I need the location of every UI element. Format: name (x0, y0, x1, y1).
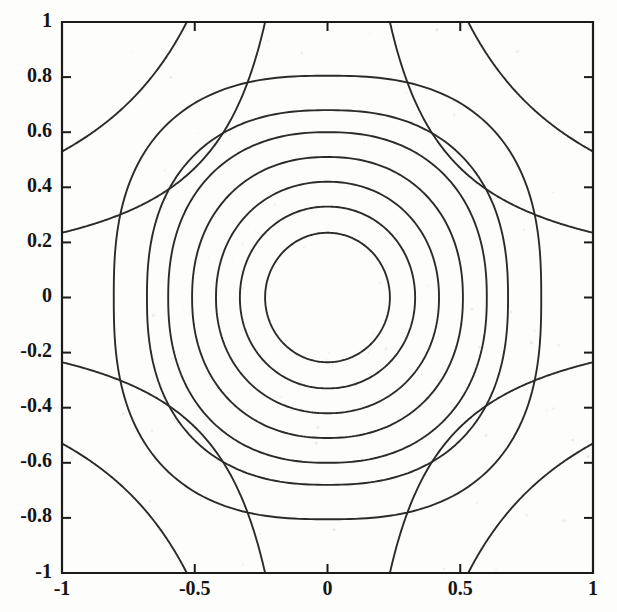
x-tick-label-0: -1 (54, 577, 71, 599)
scan-speck (149, 500, 151, 502)
scan-speck (197, 132, 198, 133)
contour-inner-group (62, 22, 593, 573)
scan-speck (330, 243, 331, 244)
x-tick-label-4: 1 (588, 577, 598, 599)
scan-speck (328, 352, 330, 354)
scan-speck (379, 282, 381, 284)
scan-speck (232, 260, 233, 261)
scan-speck (259, 533, 261, 535)
scan-speck (581, 361, 582, 362)
scan-noise (71, 21, 594, 571)
scan-speck (385, 347, 388, 350)
scan-speck (183, 306, 184, 307)
scan-speck (332, 528, 335, 531)
scan-speck (266, 40, 268, 42)
scan-speck (157, 59, 159, 61)
contour-corner-branch-outer-corner (468, 22, 593, 151)
scan-speck (242, 564, 244, 566)
y-tick-label-2: 0.6 (27, 119, 52, 141)
scan-speck (478, 346, 481, 349)
contour-level-7 (114, 76, 541, 520)
scan-speck (331, 363, 333, 365)
scan-speck (164, 347, 165, 348)
contour-level-3 (216, 182, 439, 413)
scan-speck (552, 192, 553, 193)
x-tick-label-1: -0.5 (179, 577, 211, 599)
scan-speck (523, 229, 525, 231)
contour-level-2 (240, 207, 415, 389)
y-tick-label-3: 0.4 (27, 174, 52, 196)
scan-speck (530, 341, 533, 344)
scan-speck (208, 257, 209, 258)
scan-speck (312, 210, 314, 212)
scan-speck (83, 229, 84, 230)
y-tick-label-0: 1 (42, 9, 52, 31)
axes-tick-labels-group: 10.80.60.40.20-0.2-0.4-0.6-0.8-1-1-0.500… (20, 9, 598, 600)
scan-speck (151, 430, 153, 432)
scan-speck (512, 163, 514, 165)
contour-level-4 (192, 157, 463, 438)
scan-speck (439, 275, 440, 276)
figure-page: 10.80.60.40.20-0.2-0.4-0.6-0.8-1-1-0.500… (0, 0, 617, 612)
scan-speck (303, 246, 305, 248)
scan-speck (130, 51, 131, 52)
scan-speck (152, 314, 155, 317)
contour-plot-svg: 10.80.60.40.20-0.2-0.4-0.6-0.8-1-1-0.500… (0, 0, 617, 612)
y-tick-label-8: -0.6 (20, 449, 52, 471)
scan-speck (443, 568, 446, 571)
axes-ticks-group (62, 22, 593, 573)
scan-speck (141, 480, 142, 481)
scan-speck (503, 136, 504, 137)
scan-speck (427, 285, 429, 287)
scan-speck (476, 501, 478, 503)
scan-speck (571, 439, 574, 442)
scan-speck (435, 310, 436, 311)
scan-speck (71, 456, 73, 458)
scan-speck (453, 114, 455, 116)
x-tick-label-2: 0 (323, 577, 333, 599)
scan-speck (546, 410, 548, 412)
scan-speck (495, 569, 497, 571)
scan-speck (296, 462, 298, 464)
scan-speck (122, 412, 125, 415)
contour-corner-branch-outer-corner (468, 444, 593, 573)
contour-level-6 (147, 110, 508, 485)
axes-frame (62, 22, 593, 573)
scan-speck (534, 330, 536, 332)
y-tick-label-6: -0.2 (20, 339, 52, 361)
scan-speck (558, 344, 560, 346)
contour-lines-group (62, 22, 593, 573)
scan-speck (169, 76, 172, 79)
scan-speck (490, 119, 491, 120)
scan-speck (242, 287, 244, 289)
y-tick-label-1: 0.8 (27, 64, 52, 86)
scan-speck (184, 39, 186, 41)
scan-speck (368, 352, 370, 354)
scan-speck (562, 519, 565, 522)
scan-speck (471, 308, 473, 310)
contour-level-1 (265, 233, 390, 362)
scan-speck (485, 434, 488, 437)
scan-speck (280, 396, 282, 398)
scan-speck (316, 426, 319, 429)
scan-speck (326, 359, 327, 360)
scan-speck (435, 28, 438, 31)
scan-speck (293, 44, 294, 45)
x-tick-label-3: 0.5 (448, 577, 473, 599)
scan-speck (372, 370, 374, 372)
y-tick-label-5: 0 (42, 284, 52, 306)
scan-speck (526, 514, 529, 517)
scan-speck (405, 92, 407, 94)
scan-speck (587, 455, 590, 458)
scan-speck (372, 332, 374, 334)
scan-speck (171, 357, 174, 360)
y-tick-label-9: -0.8 (20, 504, 52, 526)
contour-plot: 10.80.60.40.20-0.2-0.4-0.6-0.8-1-1-0.500… (0, 0, 617, 612)
scan-speck (369, 32, 370, 33)
y-tick-label-7: -0.4 (20, 394, 52, 416)
scan-speck (329, 498, 330, 499)
scan-speck (242, 243, 244, 245)
scan-speck (531, 443, 532, 444)
axes-frame-group (62, 22, 593, 573)
scan-speck (168, 175, 170, 177)
